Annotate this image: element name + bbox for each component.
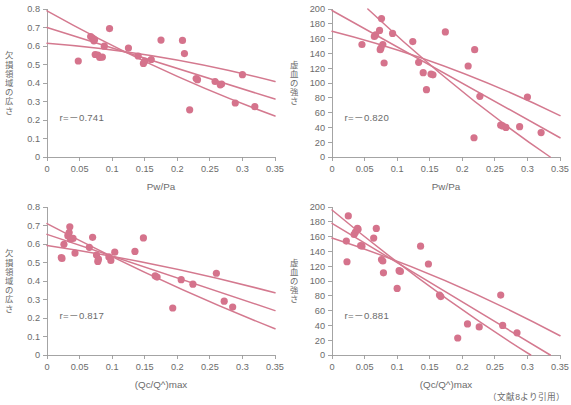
x-tick-label: 0.15 [136, 362, 154, 372]
data-point [60, 241, 67, 248]
y-tick-label: 0.2 [27, 115, 40, 125]
data-point [69, 235, 76, 242]
x-axis-title: Pw/Pa [147, 181, 176, 192]
y-axis-title: 欠損領域の広さ [5, 50, 14, 115]
data-point [107, 257, 114, 264]
y-tick-label: 160 [310, 232, 325, 242]
data-point [379, 257, 386, 264]
correlation-label: r=－0.817 [60, 310, 104, 321]
data-point [86, 244, 93, 251]
x-tick-label: 0.05 [71, 362, 89, 372]
data-point [186, 106, 193, 113]
chart-top-left: 00.10.20.30.40.50.60.70.800.050.10.150.2… [0, 0, 286, 200]
y-axis-title: 欠損領域の広さ [5, 248, 14, 313]
data-point [251, 103, 258, 110]
data-point [106, 25, 113, 32]
fit-line-upper-band [332, 238, 560, 336]
x-tick-label: 0.2 [456, 164, 469, 174]
x-tick-label: 0.35 [551, 362, 569, 372]
source-citation: （文献8より引用） [488, 390, 565, 402]
y-axis-title-char: さ [290, 96, 298, 106]
y-tick-label: 0.4 [27, 276, 40, 286]
data-point [345, 212, 352, 219]
correlation-label: r=－0.820 [345, 112, 389, 123]
x-tick-label: 0.2 [171, 164, 184, 174]
data-point [135, 52, 142, 59]
data-point [437, 293, 444, 300]
correlation-label: r=－0.741 [60, 112, 104, 123]
data-point [229, 303, 236, 310]
y-tick-label: 0.1 [27, 332, 40, 342]
data-point [131, 248, 138, 255]
y-tick-label: 20 [315, 336, 325, 346]
data-point [378, 15, 385, 22]
y-axis-title: 虚血の強さ [290, 60, 299, 107]
data-point [471, 46, 478, 53]
y-tick-label: 0.7 [27, 23, 40, 33]
y-tick-label: 40 [315, 321, 325, 331]
data-point [538, 129, 545, 136]
y-tick-label: 0.3 [27, 97, 40, 107]
y-tick-label: 140 [310, 49, 325, 59]
y-axis-title-char: さ [5, 106, 13, 116]
y-tick-label: 0 [320, 152, 325, 162]
y-axis-title: 虚血の強さ [290, 258, 299, 305]
y-tick-label: 0.5 [27, 258, 40, 268]
data-point [213, 270, 220, 277]
data-point [442, 28, 449, 35]
data-point [91, 36, 98, 43]
y-axis-title-char: さ [290, 294, 298, 304]
data-point [370, 234, 377, 241]
data-point [470, 134, 477, 141]
data-point [415, 59, 422, 66]
data-point [125, 44, 132, 51]
x-tick-label: 0.1 [391, 164, 404, 174]
x-axis-title: (Qc/Q^)max [135, 379, 188, 390]
axes-bottom-left: 00.10.20.30.40.50.60.70.800.050.10.150.2… [27, 202, 284, 372]
y-tick-label: 200 [310, 4, 325, 14]
data-point [379, 41, 386, 48]
data-point [425, 260, 432, 267]
axes-top-right: 02040608010012014016018020000.050.10.150… [310, 4, 569, 174]
data-point [232, 99, 239, 106]
y-tick-label: 40 [315, 123, 325, 133]
data-point [464, 320, 471, 327]
data-point [58, 255, 65, 262]
x-tick-label: 0.35 [551, 164, 569, 174]
data-point [194, 76, 201, 83]
x-tick-label: 0.35 [266, 164, 284, 174]
y-tick-label: 0 [35, 152, 40, 162]
x-tick-label: 0.1 [106, 362, 119, 372]
scatter-points [75, 25, 259, 113]
x-tick-label: 0.25 [201, 362, 219, 372]
y-tick-label: 0.6 [27, 41, 40, 51]
x-tick-label: 0 [329, 164, 334, 174]
x-tick-label: 0.3 [521, 362, 534, 372]
x-tick-label: 0.15 [136, 164, 154, 174]
x-tick-label: 0.25 [486, 164, 504, 174]
x-tick-label: 0.15 [421, 164, 439, 174]
y-tick-label: 0.8 [27, 202, 40, 212]
data-point [394, 285, 401, 292]
data-point [376, 27, 383, 34]
y-tick-label: 60 [315, 306, 325, 316]
data-point [95, 256, 102, 263]
x-tick-label: 0.3 [236, 362, 249, 372]
y-tick-label: 100 [310, 78, 325, 88]
data-point [454, 334, 461, 341]
data-point [497, 291, 504, 298]
x-tick-label: 0.1 [391, 362, 404, 372]
y-tick-label: 160 [310, 34, 325, 44]
x-tick-label: 0.05 [71, 164, 89, 174]
y-tick-label: 20 [315, 138, 325, 148]
data-point [218, 81, 225, 88]
chart-bottom-right: 02040608010012014016018020000.050.10.150… [285, 198, 571, 398]
y-tick-label: 60 [315, 108, 325, 118]
x-tick-label: 0.1 [106, 164, 119, 174]
x-tick-label: 0.3 [521, 164, 534, 174]
x-tick-label: 0 [44, 164, 49, 174]
x-tick-label: 0.2 [171, 362, 184, 372]
data-point [75, 57, 82, 64]
data-point [101, 43, 108, 50]
data-point [502, 124, 509, 131]
